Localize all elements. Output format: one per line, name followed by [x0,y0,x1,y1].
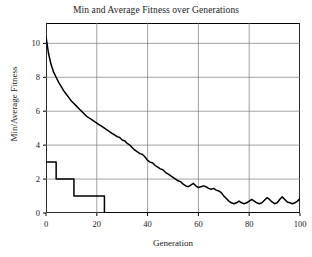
data-series-lines [46,23,300,213]
x-tick-label: 0 [31,219,61,229]
figure-canvas: Min and Average Fitness over Generations… [0,0,312,257]
x-tick-label: 20 [82,219,112,229]
y-axis-label: Min/Average Fitness [9,24,19,184]
chart-title: Min and Average Fitness over Generations [0,5,312,15]
x-axis-label: Generation [46,238,300,248]
y-axis-label-wrap: Min/Average Fitness [0,23,46,213]
plot-area [46,23,300,213]
x-tick-label: 60 [183,219,213,229]
x-tick-label: 100 [285,219,312,229]
x-tick-label: 80 [234,219,264,229]
x-tick-label: 40 [133,219,163,229]
